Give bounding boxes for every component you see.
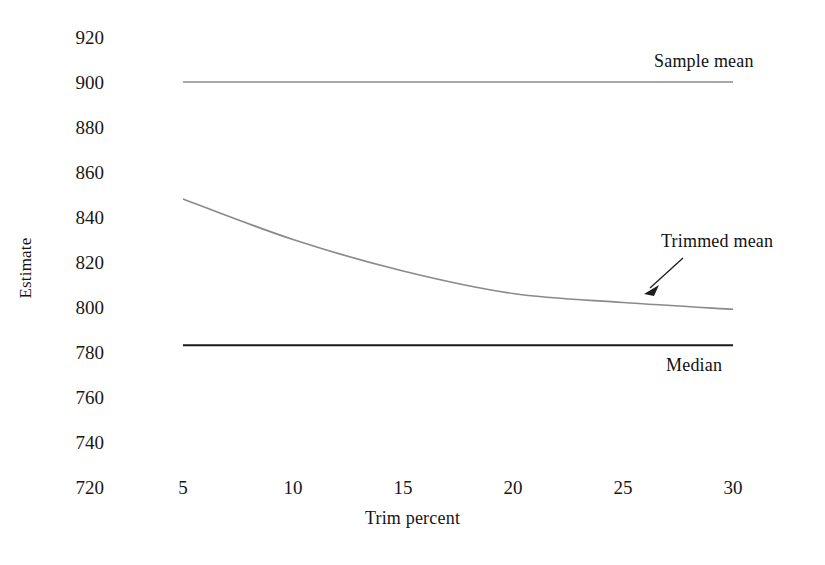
x-axis-tick-label: 15 [373,478,433,497]
series-label-trimmed-mean: Trimmed mean [661,232,773,250]
x-axis-title: Trim percent [0,508,825,529]
x-axis-tick-label: 10 [263,478,323,497]
x-axis-tick-label: 25 [593,478,653,497]
x-axis-tick-label: 30 [703,478,763,497]
x-axis-tick-label: 20 [483,478,543,497]
x-axis-tick-label: 5 [153,478,213,497]
chart-figure: Estimate 9209008808608408208007807607407… [0,0,825,565]
series-label-median: Median [666,356,722,374]
trimmed-mean-annotation-arrow [644,258,683,296]
series-label-sample-mean: Sample mean [654,52,754,70]
